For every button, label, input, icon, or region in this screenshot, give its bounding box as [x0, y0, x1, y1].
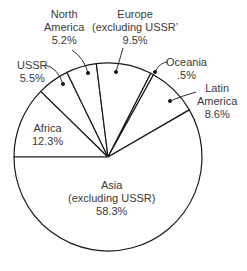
label-europe: Europe (excluding USSR’ 9.5%: [92, 8, 178, 47]
arrowhead-icon: [86, 71, 89, 74]
label-ussr: USSR 5.5%: [17, 59, 48, 85]
label-north-america: North America 5.2%: [44, 8, 84, 47]
label-asia: Asia (excluding USSR) 58.3%: [68, 179, 155, 218]
label-latin-america: Latin America 8.6%: [197, 82, 237, 121]
arrowhead-icon: [61, 82, 64, 85]
arrowhead-icon: [168, 99, 171, 102]
pie-slices: [14, 63, 202, 251]
label-oceania: Oceania .5%: [166, 56, 207, 82]
label-africa: Africa 12.3%: [32, 122, 63, 148]
arrowhead-icon: [153, 70, 156, 73]
arrowhead-icon: [114, 70, 117, 73]
